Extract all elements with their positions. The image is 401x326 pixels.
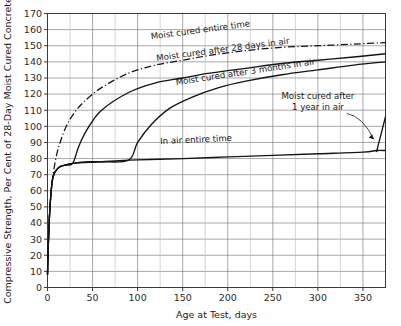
curve-in-air-entire-time [48, 150, 386, 274]
y-tick-label: 20 [30, 250, 42, 261]
y-axis-tick-labels: 0102030405060708090100110120130140150160… [24, 8, 42, 293]
x-tick-label: 350 [354, 292, 372, 303]
y-tick-label: 10 [30, 266, 42, 277]
y-tick-label: 170 [24, 8, 42, 19]
annotation-label: Moist cured after 28 days in air [156, 35, 291, 62]
y-tick-label: 40 [30, 217, 42, 228]
y-tick-label: 50 [30, 201, 42, 212]
x-axis-tick-labels: 050100150200250300350 [44, 292, 372, 303]
y-tick-label: 70 [30, 169, 42, 180]
compressive-strength-chart: 0102030405060708090100110120130140150160… [0, 0, 401, 326]
y-tick-label: 90 [30, 137, 42, 148]
y-tick-label: 120 [24, 88, 42, 99]
y-tick-label: 100 [24, 121, 42, 132]
x-tick-label: 0 [44, 292, 50, 303]
curve-moist-cured-after-28-days-in-air [48, 54, 386, 275]
curve-moist-cured-after-1-year-in-air [376, 117, 385, 152]
y-tick-label: 110 [24, 105, 42, 116]
annotation-label: In air entire time [160, 133, 232, 146]
chart-container: 0102030405060708090100110120130140150160… [0, 0, 401, 326]
y-tick-label: 130 [24, 72, 42, 83]
x-tick-label: 100 [129, 292, 147, 303]
y-tick-label: 140 [24, 56, 42, 67]
x-tick-label: 300 [309, 292, 327, 303]
y-tick-label: 160 [24, 24, 42, 35]
x-tick-label: 250 [264, 292, 282, 303]
y-axis-title: Compressive Strength, Per Cent of 28-Day… [2, 0, 13, 304]
annotation-label: Moist cured after [281, 91, 354, 101]
curve-annotations: Moist cured entire timeMoist cured after… [150, 18, 355, 146]
annotation-label: Moist cured after 3 months in air [175, 56, 316, 87]
y-tick-label: 80 [30, 153, 42, 164]
y-tick-label: 150 [24, 40, 42, 51]
y-tick-label: 60 [30, 185, 42, 196]
x-tick-label: 150 [174, 292, 192, 303]
annotation-label: Moist cured entire time [150, 18, 250, 41]
x-tick-label: 200 [219, 292, 237, 303]
y-tick-label: 30 [30, 234, 42, 245]
x-axis-title: Age at Test, days [176, 309, 257, 320]
y-tick-label: 0 [36, 282, 42, 293]
x-tick-label: 50 [87, 292, 99, 303]
annotation-label: 1 year in air [292, 102, 344, 112]
